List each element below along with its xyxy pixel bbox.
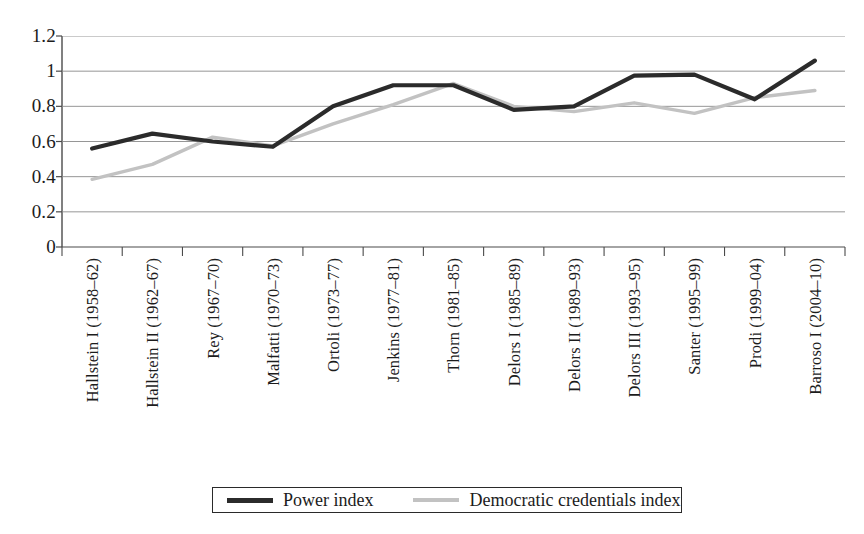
y-axis-tick-label: 0.6: [8, 132, 56, 151]
legend-line-swatch-democratic-credentials-index: [413, 498, 459, 502]
x-axis-tick-label: Hallstein I (1958–62): [84, 258, 101, 402]
y-axis-tick-label: 0: [8, 237, 56, 256]
legend-line-swatch-power-index: [227, 498, 273, 503]
series-canvas: [62, 36, 845, 247]
x-axis-category: Delors II (1989–93): [544, 258, 604, 468]
y-axis-tick-label: 1.2: [8, 26, 56, 45]
series-line-democratic-credentials-index: [92, 83, 815, 179]
y-axis-tick-labels: 1.210.80.60.40.20: [0, 0, 56, 534]
x-axis-category: Hallstein II (1962–67): [122, 258, 182, 468]
x-axis-tick-label: Delors II (1989–93): [565, 258, 582, 392]
plot-area: [62, 36, 845, 247]
x-axis-tick-label: Hallstein II (1962–67): [144, 258, 161, 408]
x-axis-category: Santer (1995–99): [664, 258, 724, 468]
chart-legend: Power index Democratic credentials index: [212, 487, 682, 513]
x-axis-category: Delors III (1993–95): [604, 258, 664, 468]
x-axis-category: Barroso I (2004–10): [785, 258, 845, 468]
x-axis-tick-label: Prodi (1999–04): [746, 258, 763, 368]
legend-item-power-index: Power index: [227, 491, 373, 509]
x-axis-tick-label: Barroso I (2004–10): [806, 258, 823, 395]
x-axis-category: Jenkins (1977–81): [363, 258, 423, 468]
y-axis-tick-label: 1: [8, 61, 56, 80]
x-axis-category: Hallstein I (1958–62): [62, 258, 122, 468]
y-axis-tick-label: 0.2: [8, 202, 56, 221]
x-axis-tick-label: Thorn (1981–85): [445, 258, 462, 373]
x-axis-category: Delors I (1985–89): [484, 258, 544, 468]
y-axis-tick-label: 0.4: [8, 167, 56, 186]
series-line-power-index: [92, 61, 815, 149]
x-axis-category: Rey (1967–70): [182, 258, 242, 468]
x-axis-tick-label: Delors I (1985–89): [505, 258, 522, 386]
x-axis-tick-label: Malfatti (1970–73): [264, 258, 281, 386]
x-axis-tick-label: Ortoli (1973–77): [325, 258, 342, 372]
x-axis-tick-label: Delors III (1993–95): [626, 258, 643, 397]
legend-label-power-index: Power index: [283, 491, 373, 509]
line-chart: 1.210.80.60.40.20 Hallstein I (1958–62)H…: [0, 0, 864, 534]
x-axis-tick-label: Santer (1995–99): [686, 258, 703, 375]
x-axis-category: Malfatti (1970–73): [243, 258, 303, 468]
x-axis-category: Ortoli (1973–77): [303, 258, 363, 468]
legend-label-democratic-credentials-index: Democratic credentials index: [469, 491, 680, 509]
y-axis-tick-label: 0.8: [8, 96, 56, 115]
x-axis-tick-label: Jenkins (1977–81): [385, 258, 402, 382]
x-axis-tick-label: Rey (1967–70): [204, 258, 221, 359]
x-axis-tick-labels: Hallstein I (1958–62)Hallstein II (1962–…: [62, 258, 845, 468]
x-axis-category: Prodi (1999–04): [725, 258, 785, 468]
legend-item-democratic-credentials-index: Democratic credentials index: [413, 491, 680, 509]
x-axis-category: Thorn (1981–85): [423, 258, 483, 468]
